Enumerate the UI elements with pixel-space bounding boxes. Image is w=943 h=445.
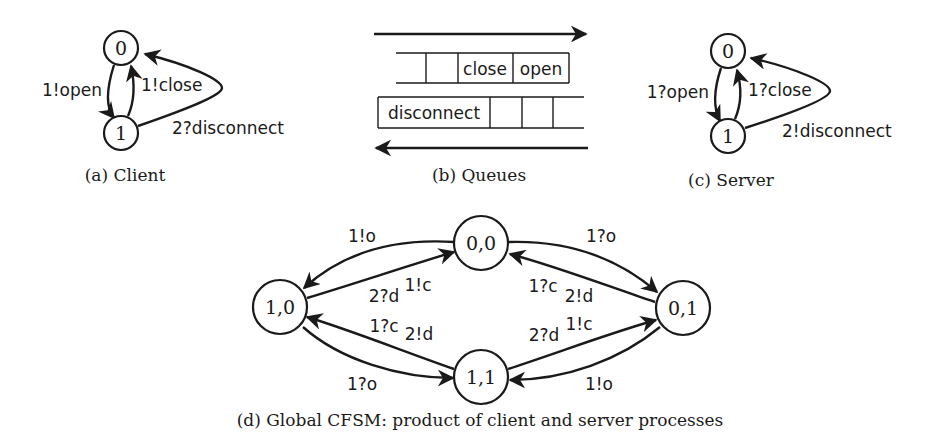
label-10-11: 1?o (347, 374, 377, 394)
server-edge-open (715, 68, 721, 121)
label-10-00-a: 2?d (369, 286, 400, 306)
global-state-10-label: 1,0 (265, 296, 295, 318)
global-cfsm: 0,0 1,0 0,1 1,1 1!o 2?d 1!c 1?o 1?c 2!d … (237, 216, 724, 430)
label-01-00-b: 2!d (565, 286, 593, 306)
server-label-close: 1?close (748, 80, 812, 100)
label-10-00-b: 1!c (405, 275, 432, 295)
global-state-00-label: 0,0 (466, 232, 496, 254)
server-label-disconnect: 2!disconnect (782, 121, 892, 141)
global-state-01-label: 0,1 (668, 297, 698, 319)
client-state-1-label: 1 (115, 122, 127, 144)
global-caption: (d) Global CFSM: product of client and s… (237, 410, 724, 430)
label-11-10-a: 1?c (369, 316, 398, 336)
server-edge-close (735, 70, 741, 119)
queue-top-close: close (463, 59, 507, 79)
label-11-01-b: 1!c (566, 314, 593, 334)
edge-00-10 (304, 241, 454, 288)
label-01-11: 1!o (585, 374, 613, 394)
client-label-close: 1!close (141, 75, 202, 95)
client-state-0-label: 0 (115, 37, 127, 59)
queue-bottom-disconnect: disconnect (388, 103, 480, 123)
client-label-disconnect: 2?disconnect (172, 118, 284, 138)
server-state-1-label: 1 (722, 125, 734, 147)
client-label-open: 1!open (42, 80, 102, 100)
queues-caption: (b) Queues (432, 165, 526, 185)
client-edge-close (128, 66, 134, 116)
label-11-01-a: 2?d (529, 325, 560, 345)
queues: close open disconnect (b) Queues (374, 34, 588, 185)
global-state-11-label: 1,1 (466, 366, 496, 388)
server-state-0-label: 0 (722, 40, 734, 62)
client-caption: (a) Client (85, 165, 166, 185)
label-11-10-b: 2!d (405, 324, 433, 344)
label-00-01: 1?o (586, 226, 616, 246)
server-label-open: 1?open (647, 82, 709, 102)
server-caption: (c) Server (688, 170, 775, 190)
client-fsm: 0 1 1!open 1!close 2?disconnect (a) Clie… (42, 31, 284, 185)
label-01-00-a: 1?c (528, 276, 557, 296)
queue-top-open: open (520, 59, 562, 79)
server-fsm: 0 1 1?open 1?close 2!disconnect (c) Serv… (647, 34, 892, 190)
label-00-10: 1!o (348, 226, 376, 246)
client-edge-open (108, 65, 114, 118)
